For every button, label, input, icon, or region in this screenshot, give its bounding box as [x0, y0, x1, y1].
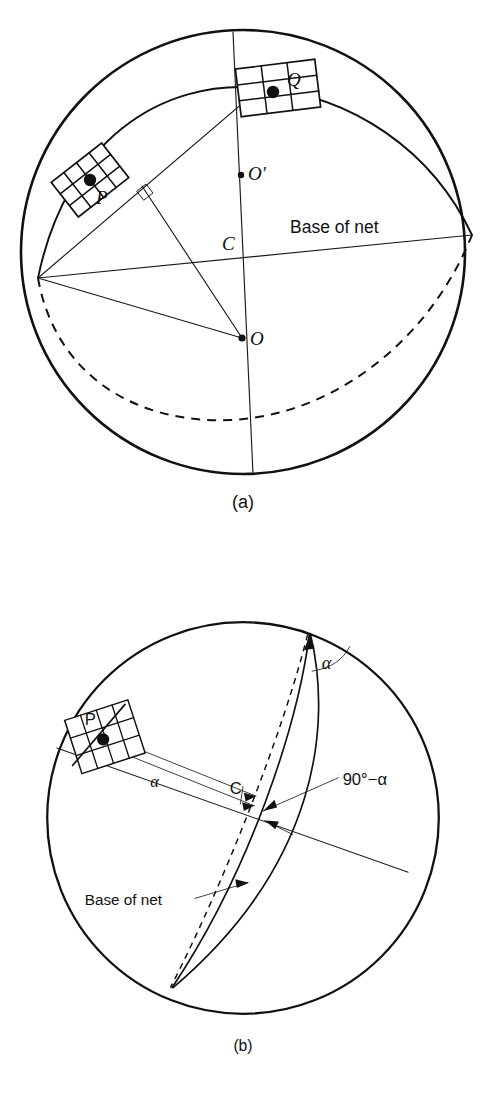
figure-page: P Q O' C O Base of net (a): [0, 0, 486, 1096]
leader-arrowhead-complement-2: [265, 821, 279, 830]
chord-left-to-o: [38, 278, 242, 338]
label-point-o-prime: O': [248, 163, 267, 184]
label-point-p-b: P: [85, 710, 96, 729]
point-q-dot: [267, 86, 279, 98]
caption-a: (a): [232, 492, 254, 512]
label-point-c-b: C: [230, 779, 242, 798]
net-patch-q-outline: [235, 59, 320, 116]
label-point-o: O: [250, 328, 264, 349]
figure-panel-b: P α α C 90°−α Base of net (b): [0, 540, 486, 1096]
label-base-of-net-b: Base of net: [85, 891, 163, 908]
great-circle-arc-inner-b: [172, 634, 309, 987]
label-point-p: P: [95, 187, 108, 208]
base-of-net-line-a: [38, 235, 472, 278]
primitive-circle-b: [47, 622, 439, 1014]
net-patch-q: [235, 59, 320, 116]
point-o-dot: [238, 334, 245, 341]
panel-a-svg: P Q O' C O Base of net (a): [0, 0, 486, 520]
great-circle-arc-dashed-b: [170, 634, 307, 987]
label-complement-angle: 90°−α: [343, 770, 388, 789]
label-alpha-top: α: [322, 653, 332, 673]
perpendicular-o-to-chord: [142, 186, 242, 338]
label-point-q: Q: [287, 69, 301, 90]
figure-panel-a: P Q O' C O Base of net (a): [0, 0, 486, 520]
point-p-dot: [84, 174, 96, 186]
caption-b: (b): [233, 1037, 252, 1054]
leader-arrowhead-base-of-net-b: [235, 879, 249, 888]
point-p-b-dot: [97, 733, 109, 745]
label-alpha-mid: α: [150, 772, 159, 791]
label-point-c: C: [222, 233, 235, 254]
great-circle-arc-solid-b: [173, 634, 319, 988]
panel-b-svg: P α α C 90°−α Base of net (b): [0, 540, 486, 1096]
point-o-prime-dot: [238, 172, 244, 178]
label-base-of-net-a: Base of net: [290, 217, 379, 237]
